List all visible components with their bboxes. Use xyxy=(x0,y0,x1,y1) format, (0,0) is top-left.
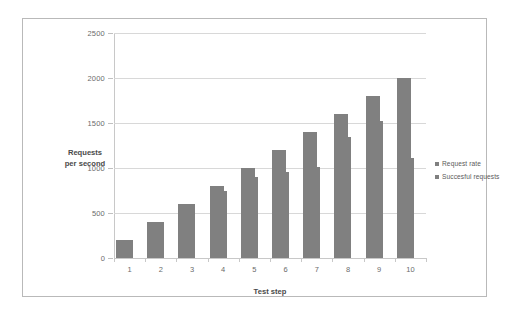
y-axis-tick-mark xyxy=(108,78,113,79)
chart-frame: Requests per second 05001000150020002500… xyxy=(22,18,487,297)
x-axis-tick-label: 5 xyxy=(252,265,256,274)
y-axis-tick-label: 500 xyxy=(92,209,105,218)
x-axis-tick-mark xyxy=(332,258,333,262)
bar-request-rate[interactable] xyxy=(241,168,255,258)
y-axis-tick-mark xyxy=(108,123,113,124)
y-axis-tick-mark xyxy=(108,258,113,259)
bar-group xyxy=(145,33,176,258)
x-axis-tick-mark xyxy=(270,258,271,262)
x-axis-tick-label: 7 xyxy=(315,265,319,274)
x-axis-tick-label: 6 xyxy=(284,265,288,274)
y-axis-tick-label: 1000 xyxy=(88,164,106,173)
x-axis-tick-mark xyxy=(395,258,396,262)
bar-request-rate[interactable] xyxy=(178,204,192,258)
legend-item-label: Succesful requests xyxy=(442,173,500,180)
x-axis-title: Test step xyxy=(114,287,426,296)
x-axis-tick-mark xyxy=(239,258,240,262)
x-axis-tick-label: 1 xyxy=(128,265,132,274)
x-axis-tick-label: 10 xyxy=(406,265,414,274)
bar-group xyxy=(301,33,332,258)
bar-request-rate[interactable] xyxy=(303,132,317,258)
legend-swatch-icon xyxy=(435,162,439,166)
x-axis-tick-mark xyxy=(301,258,302,262)
x-axis-tick-label: 4 xyxy=(221,265,225,274)
x-axis-tick-label: 9 xyxy=(377,265,381,274)
bar-group xyxy=(332,33,363,258)
x-axis-tick-mark xyxy=(145,258,146,262)
bar-request-rate[interactable] xyxy=(272,150,286,258)
y-axis-tick-label: 2000 xyxy=(88,74,106,83)
bar-group xyxy=(364,33,395,258)
bar-request-rate[interactable] xyxy=(334,114,348,258)
bar-group xyxy=(208,33,239,258)
bar-request-rate[interactable] xyxy=(210,186,224,258)
bar-request-rate[interactable] xyxy=(366,96,380,258)
x-axis-tick-mark xyxy=(426,258,427,262)
plot-area: 05001000150020002500 12345678910 xyxy=(114,33,426,258)
bar-group xyxy=(114,33,145,258)
plot-inner: 05001000150020002500 12345678910 xyxy=(114,33,426,258)
x-axis-tick-mark xyxy=(208,258,209,262)
x-axis-tick-mark xyxy=(364,258,365,262)
bar-group xyxy=(239,33,270,258)
legend-item-request-rate[interactable]: Request rate xyxy=(435,160,509,167)
bar-group xyxy=(395,33,426,258)
y-axis-tick-label: 1500 xyxy=(88,119,106,128)
bar-group xyxy=(176,33,207,258)
y-axis-tick-mark xyxy=(108,33,113,34)
bar-group xyxy=(270,33,301,258)
y-axis-title-line-2: per second xyxy=(55,158,115,169)
x-axis-tick-label: 3 xyxy=(190,265,194,274)
legend-item-label: Request rate xyxy=(442,160,481,167)
y-axis-tick-label: 2500 xyxy=(88,29,106,38)
legend-swatch-icon xyxy=(435,175,439,179)
x-axis-tick-mark xyxy=(176,258,177,262)
x-axis-tick-label: 2 xyxy=(159,265,163,274)
bar-request-rate[interactable] xyxy=(147,222,161,258)
screenshot-root: Requests per second 05001000150020002500… xyxy=(0,0,510,315)
bar-request-rate[interactable] xyxy=(116,240,130,258)
x-axis-tick-mark xyxy=(114,258,115,262)
y-axis-tick-label: 0 xyxy=(101,254,105,263)
chart-legend: Request rate Succesful requests xyxy=(435,160,509,186)
y-axis-title-line-1: Requests xyxy=(55,147,115,158)
y-axis-title: Requests per second xyxy=(55,147,115,169)
legend-item-succesful-requests[interactable]: Succesful requests xyxy=(435,173,509,180)
y-axis-tick-mark xyxy=(108,168,113,169)
y-axis-tick-mark xyxy=(108,213,113,214)
x-axis-tick-label: 8 xyxy=(346,265,350,274)
bar-request-rate[interactable] xyxy=(397,78,411,258)
